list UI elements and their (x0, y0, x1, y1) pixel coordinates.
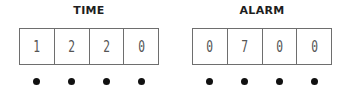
alarm-digit-3-value: 0 (276, 38, 283, 56)
alarm-digit-3-button[interactable] (276, 78, 283, 85)
alarm-digit-4-button[interactable] (311, 78, 318, 85)
time-digit-1-value: 1 (33, 38, 40, 56)
time-digit-4-value: 0 (138, 38, 145, 56)
alarm-digit-2: 7 (228, 29, 263, 64)
alarm-digit-1: 0 (193, 29, 228, 64)
time-digit-1: 1 (20, 29, 55, 64)
alarm-digit-3: 0 (263, 29, 298, 64)
time-digit-2-value: 2 (68, 38, 75, 56)
alarm-digit-4-value: 0 (311, 38, 318, 56)
time-digit-4: 0 (124, 29, 158, 64)
time-panel: TIME 1 2 2 0 (19, 0, 159, 89)
time-buttons (19, 78, 159, 85)
time-digit-1-button[interactable] (33, 78, 40, 85)
alarm-digit-2-button[interactable] (241, 78, 248, 85)
alarm-buttons (192, 78, 332, 85)
time-digit-2: 2 (55, 29, 90, 64)
alarm-digit-2-value: 7 (241, 38, 248, 56)
alarm-digit-1-button[interactable] (206, 78, 213, 85)
time-digit-3-value: 2 (103, 38, 110, 56)
time-digit-2-button[interactable] (68, 78, 75, 85)
alarm-panel: ALARM 0 7 0 0 (192, 0, 332, 89)
time-title: TIME (19, 4, 159, 17)
alarm-digit-4: 0 (297, 29, 331, 64)
time-display: 1 2 2 0 (19, 28, 159, 65)
alarm-display: 0 7 0 0 (192, 28, 332, 65)
time-digit-4-button[interactable] (138, 78, 145, 85)
time-digit-3-button[interactable] (103, 78, 110, 85)
alarm-title: ALARM (192, 4, 332, 17)
time-digit-3: 2 (90, 29, 125, 64)
alarm-digit-1-value: 0 (206, 38, 213, 56)
